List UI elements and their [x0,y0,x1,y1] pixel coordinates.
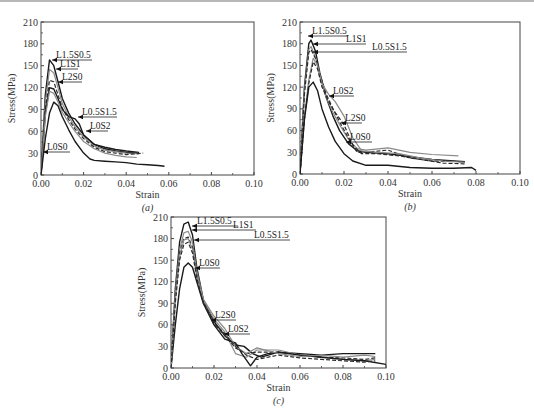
y-tick-label: 210 [23,17,38,28]
chart-panel-a: 03060901201501802100.000.020.040.060.080… [6,17,263,215]
annotation-l0-5s1-5: L0.5S1.5 [82,107,117,117]
y-axis-label: Stress(MPa) [6,74,18,123]
annotation-l1-5s0-5: L1.5S0.5 [312,26,347,36]
y-tick-label: 180 [282,38,297,49]
x-tick-label: 0.00 [162,371,180,382]
annotation-l1s1: L1S1 [233,220,254,230]
annotation-l2s0: L2S0 [215,310,236,320]
chart-panel-b: 03060901201501802100.000.020.040.060.080… [265,17,529,214]
x-tick-label: 0.00 [291,177,309,188]
arrow-icon [192,224,197,228]
y-tick-label: 150 [153,255,168,266]
y-tick-label: 60 [158,319,168,330]
stress-strain-figure: 03060901201501802100.000.020.040.060.080… [0,0,534,418]
y-tick-label: 120 [153,276,168,287]
x-tick-label: 0.10 [377,371,395,382]
x-tick-label: 0.06 [423,177,441,188]
series-l0s0 [171,263,386,368]
x-tick-label: 0.02 [335,177,353,188]
annotation-l0s0: L0S0 [199,258,220,268]
arrow-icon [308,34,313,38]
y-tick-label: 60 [28,126,38,137]
annotation-l0s2: L0S2 [228,324,249,334]
y-axis-label: Stress(MPa) [136,268,148,317]
y-tick-label: 90 [158,298,168,309]
y-tick-label: 210 [153,212,168,223]
x-tick-label: 0.02 [205,371,223,382]
annotation-l2s0: L2S0 [62,72,83,82]
x-tick-label: 0.10 [245,178,263,189]
annotation-l0s2: L0S2 [90,121,111,131]
x-tick-label: 0.00 [32,178,50,189]
annotation-l1-5s0-5: L1.5S0.5 [197,216,232,226]
annotation-l1s1: L1S1 [346,34,367,44]
x-tick-label: 0.06 [291,371,309,382]
annotation-l1s1: L1S1 [60,59,81,69]
y-tick-label: 150 [282,60,297,71]
x-tick-label: 0.04 [248,371,266,382]
y-tick-label: 180 [23,38,38,49]
annotation-l0s0: L0S0 [47,142,68,152]
arrow-icon [86,129,91,133]
y-axis-label: Stress(MPa) [265,73,277,122]
arrow-icon [56,67,61,71]
x-axis-label: Strain [398,188,422,199]
series-l1s1 [300,47,458,174]
y-tick-label: 30 [158,341,168,352]
series-l0-5s1-5 [171,237,375,368]
x-axis-label: Strain [267,382,291,393]
annotation-l2s0: L2S0 [345,113,366,123]
x-tick-label: 0.08 [203,178,221,189]
annotation-l0s0: L0S0 [350,132,371,142]
y-tick-label: 30 [28,148,38,159]
plot-frame [300,22,520,174]
y-tick-label: 30 [287,147,297,158]
y-tick-label: 90 [287,103,297,114]
y-tick-label: 90 [28,104,38,115]
x-tick-label: 0.04 [117,178,135,189]
panel-caption: (c) [273,395,285,407]
y-tick-label: 210 [282,17,297,28]
x-tick-label: 0.08 [467,177,485,188]
y-tick-label: 150 [23,60,38,71]
x-axis-label: Strain [136,189,160,200]
series-l1-5s0-5 [300,40,465,174]
panel-caption: (b) [404,201,416,213]
y-tick-label: 120 [282,82,297,93]
y-tick-label: 180 [153,233,168,244]
arrow-icon [52,58,57,62]
annotation-l0-5s1-5: L0.5S1.5 [254,230,289,240]
arrow-icon [192,228,197,232]
x-tick-label: 0.02 [75,178,93,189]
chart-panel-c: 03060901201501802100.000.020.040.060.080… [136,212,395,408]
arrow-icon [78,115,83,119]
y-tick-label: 60 [287,125,297,136]
plot-frame [41,22,254,175]
annotation-l0s2: L0S2 [333,86,354,96]
y-tick-label: 120 [23,82,38,93]
x-tick-label: 0.04 [379,177,397,188]
x-tick-label: 0.06 [160,178,178,189]
annotation-l0-5s1-5: L0.5S1.5 [372,42,407,52]
arrow-icon [194,238,199,242]
x-tick-label: 0.08 [334,371,352,382]
x-tick-label: 0.10 [511,177,529,188]
